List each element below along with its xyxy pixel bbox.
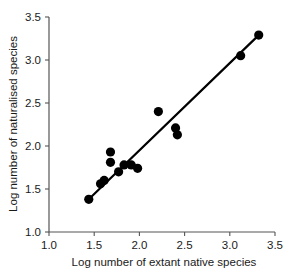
x-tick-label: 3.5	[267, 239, 283, 251]
regression-line-segment	[89, 33, 261, 199]
data-point	[106, 158, 115, 167]
scatter-plot-figure: 1.01.52.02.53.03.5 1.01.52.02.53.03.5 Lo…	[0, 0, 293, 273]
y-axis-title: Log number of naturalised species	[7, 36, 19, 212]
data-point	[106, 147, 115, 156]
x-tick-label: 2.0	[131, 239, 147, 251]
y-axis-tick-labels: 1.01.52.02.53.03.5	[25, 11, 41, 238]
y-tick-label: 2.0	[25, 140, 41, 152]
data-point	[173, 130, 182, 139]
axis-frame-lines	[49, 17, 275, 232]
plot-canvas: 1.01.52.02.53.03.5 1.01.52.02.53.03.5 Lo…	[0, 0, 293, 273]
y-tick-label: 1.5	[25, 183, 41, 195]
x-axis-tick-labels: 1.01.52.02.53.03.5	[41, 239, 283, 251]
data-point	[254, 30, 263, 39]
data-point	[236, 51, 245, 60]
regression-line	[89, 33, 261, 199]
plot-axes	[45, 17, 275, 236]
y-tick-label: 3.0	[25, 54, 41, 66]
x-axis-title: Log number of extant native species	[72, 256, 257, 268]
data-point	[84, 195, 93, 204]
x-tick-label: 3.0	[222, 239, 238, 251]
y-tick-label: 1.0	[25, 226, 41, 238]
data-point	[154, 107, 163, 116]
y-tick-label: 3.5	[25, 11, 41, 23]
x-tick-label: 1.5	[86, 239, 102, 251]
data-point	[133, 164, 142, 173]
y-tick-label: 2.5	[25, 97, 41, 109]
x-tick-label: 1.0	[41, 239, 57, 251]
x-tick-label: 2.5	[177, 239, 193, 251]
data-point	[100, 176, 109, 185]
